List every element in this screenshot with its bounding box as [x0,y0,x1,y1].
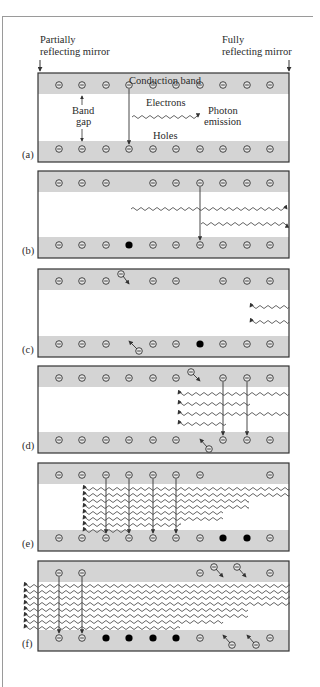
conduction-electron [103,180,110,187]
valence-band [38,141,289,162]
valence-electron [197,242,204,249]
valence-electron [173,242,180,249]
conduction-electron [220,278,227,285]
gap-label: gap [76,116,91,127]
valence-electron [220,437,227,444]
valence-electron [267,146,274,153]
conduction-band [38,463,289,484]
conduction-electron [79,278,86,285]
valence-electron [150,437,157,444]
panel-f [24,561,289,651]
panel-b [38,171,289,258]
conduction-electron [56,278,63,285]
hole-dot [219,534,226,541]
panel-label: (d) [22,440,34,452]
valence-electron [56,341,63,348]
conduction-electron [197,570,204,577]
valence-electron [150,535,157,542]
conduction-electron [56,180,63,187]
conduction-electron [173,472,180,479]
valence-electron [197,146,204,153]
valence-electron [103,535,110,542]
conduction-electron [197,180,204,187]
panel-e [38,463,289,551]
valence-electron [103,341,110,348]
conduction-electron [244,82,251,89]
valence-electron [150,242,157,249]
valence-electron [267,635,274,642]
hole-dot [149,634,156,641]
conduction-electron [150,472,157,479]
valence-electron [220,242,227,249]
valence-electron [79,635,86,642]
conduction-electron [56,375,63,382]
conduction-electron [267,570,274,577]
photon-label: Photon [208,105,239,116]
valence-electron [56,535,63,542]
valence-electron [244,242,251,249]
valence-electron [220,341,227,348]
valence-electron [56,437,63,444]
valence-electron [126,437,133,444]
conduction-electron [150,180,157,187]
conduction-electron [103,472,110,479]
valence-electron [79,146,86,153]
conduction-electron [267,180,274,187]
conduction-band [38,269,289,290]
conduction-electron [126,472,133,479]
valence-band [38,336,289,357]
valence-electron [103,146,110,153]
conduction-electron [79,180,86,187]
valence-band [38,530,289,551]
valence-electron [79,437,86,444]
valence-electron [79,535,86,542]
conduction-electron [150,278,157,285]
valence-band [38,237,289,258]
panel-label: (a) [22,149,34,161]
panel-c [38,269,289,357]
conduction-electron [79,570,86,577]
conduction-band [38,171,289,192]
electrons-label: Electrons [146,97,186,108]
conduction-electron [56,82,63,89]
conduction-electron [244,278,251,285]
valence-electron [56,146,63,153]
panel-label: (b) [22,245,34,257]
conduction-electron [103,278,110,285]
conduction-electron [173,375,180,382]
conduction-electron [173,180,180,187]
valence-electron [150,146,157,153]
panel-d [38,366,289,453]
valence-band [38,432,289,453]
valence-electron [267,242,274,249]
conduction-electron [150,375,157,382]
conduction-electron [126,375,133,382]
valence-electron [103,437,110,444]
band-label: Band [72,105,95,116]
conduction-electron [267,472,274,479]
hole-dot [125,634,132,641]
valence-electron [56,635,63,642]
valence-electron [244,341,251,348]
panel-label: (e) [22,538,34,550]
conduction-electron [173,278,180,285]
conduction-electron [79,82,86,89]
conduction-electron [197,472,204,479]
valence-electron [220,146,227,153]
valence-electron [267,437,274,444]
valence-electron [173,341,180,348]
panel-label: (c) [22,344,34,356]
conduction-electron [220,82,227,89]
valence-electron [173,437,180,444]
conduction-electron [267,278,274,285]
valence-electron [79,341,86,348]
conduction-electron [56,570,63,577]
valence-electron [197,635,204,642]
valence-electron [267,341,274,348]
valence-electron [173,535,180,542]
valence-electron [244,437,251,444]
conduction-electron [220,375,227,382]
emission-label: emission [204,116,242,127]
holes-label: Holes [153,130,178,141]
hole-dot [196,340,203,347]
